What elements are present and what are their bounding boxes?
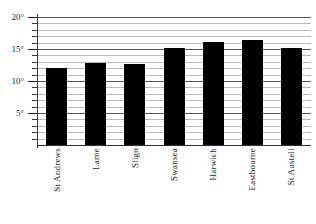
bar [281,48,302,145]
y-tick-minor [32,107,37,108]
y-axis-ticks [26,17,37,145]
gridline-minor [37,43,311,44]
y-tick-major [28,49,37,50]
y-tick-minor [32,139,37,140]
gridline-minor [37,30,311,31]
x-tick-label: Harwich [208,148,218,180]
x-tick-label: Eastbourne [247,148,257,191]
x-axis-line [37,145,311,146]
y-axis-tick-labels: 20°15°10°5° [0,17,24,145]
y-tick-label: 10° [11,76,24,86]
y-tick-minor [32,132,37,133]
y-tick-minor [32,126,37,127]
y-tick-minor [32,68,37,69]
gridline-minor [37,36,311,37]
bar [85,63,106,145]
x-tick-label: St Austell [286,148,296,185]
bar [164,48,185,145]
y-tick-major [28,113,37,114]
y-tick-minor [32,55,37,56]
bar [124,64,145,145]
y-tick-major [28,81,37,82]
y-tick-minor [32,94,37,95]
y-tick-label: 5° [16,108,24,118]
x-axis-tick-labels: St AndrewsLarneSligoSwanseaHarwichEastbo… [37,148,311,222]
x-tick-label: Sligo [130,148,140,168]
gridline-major [37,17,311,18]
y-tick-minor [32,87,37,88]
x-tick-label: Larne [91,148,101,170]
y-tick-minor [32,75,37,76]
bar [46,68,67,145]
gridline-minor [37,23,311,24]
y-tick-minor [32,36,37,37]
y-tick-label: 20° [11,12,24,22]
y-tick-minor [32,100,37,101]
y-tick-minor [32,23,37,24]
y-tick-minor [32,43,37,44]
y-tick-minor [32,119,37,120]
bar [242,40,263,145]
y-tick-label: 15° [11,44,24,54]
y-tick-minor [32,62,37,63]
y-axis-line [37,14,38,148]
x-tick-label: Swansea [169,148,179,181]
bar-chart: 20°15°10°5° St AndrewsLarneSligoSwanseaH… [0,0,316,224]
x-tick-label: St Andrews [52,148,62,192]
bar [203,42,224,145]
y-tick-major [28,17,37,18]
y-tick-minor [32,30,37,31]
plot-area [37,17,311,145]
